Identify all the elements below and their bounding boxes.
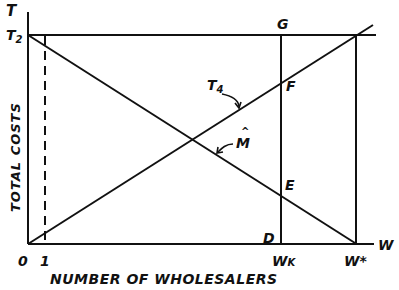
y-axis-label-t: T [6,2,18,20]
point-label-g: G [277,16,289,32]
tick-label-wstar: W* [344,253,367,269]
m-hat-label: M [236,135,250,151]
tick-label-wk: WK [272,253,296,269]
m-hat-arrow [218,144,233,152]
tick-label-origin: 0 [18,253,28,269]
x-axis-label-w: W [378,237,394,253]
y-axis-title: TOTAL COSTS [8,102,23,212]
point-label-f: F [286,78,296,94]
t4-label: T4 [207,77,224,95]
point-label-e: E [285,177,295,193]
point-label-d: D [263,230,275,246]
t4-line [28,25,373,244]
x-axis-title: NUMBER OF WHOLESALERS [50,271,278,287]
total-costs-diagram: T T2 TOTAL COSTS G F E D T4 ^ M W 0 1 WK… [0,0,399,290]
t2-label: T2 [6,27,23,45]
tick-label-one: 1 [40,253,50,269]
